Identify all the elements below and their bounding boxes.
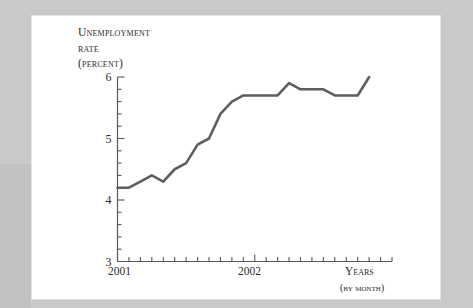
y-tick-label: 5 [106, 132, 112, 146]
x-axis-label: Years [345, 265, 374, 277]
x-axis-sublabel: (by month) [340, 283, 384, 293]
plot-area: 3456 [0, 0, 473, 308]
y-tick-marks [118, 77, 125, 262]
axes-group [118, 77, 393, 262]
y-tick-label: 4 [106, 193, 112, 207]
unemployment-rate-chart: Unemployment rate (percent) 3456 2001 20… [0, 0, 473, 308]
x-tick-label-2002: 2002 [238, 265, 261, 277]
unemployment-rate-line [118, 77, 370, 188]
x-tick-marks [118, 255, 393, 262]
y-tick-label: 6 [106, 70, 112, 84]
x-tick-label-2001: 2001 [108, 265, 131, 277]
y-tick-labels: 3456 [106, 70, 112, 268]
